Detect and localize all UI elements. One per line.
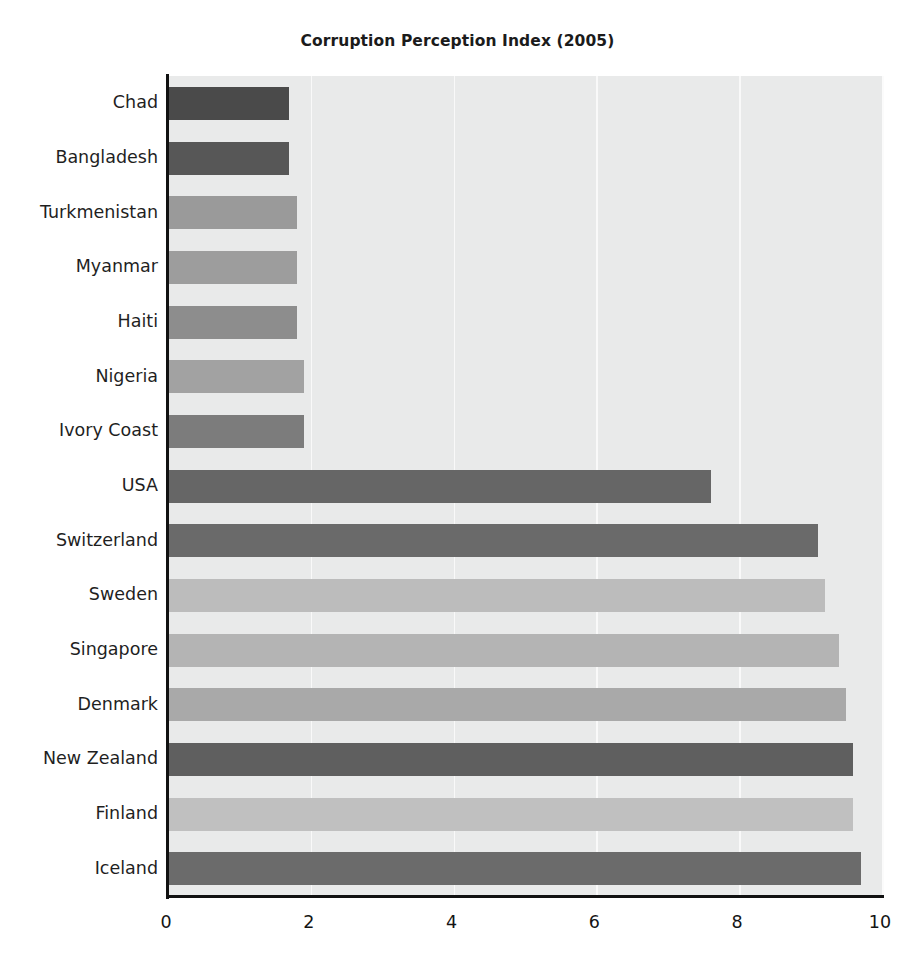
bar <box>168 251 297 284</box>
bar <box>168 415 304 448</box>
y-tick-label: Turkmenistan <box>0 202 158 222</box>
page-title: Corruption Perception Index (2005) <box>0 32 915 50</box>
bar <box>168 360 304 393</box>
y-tick-label: Nigeria <box>0 366 158 386</box>
bar <box>168 524 818 557</box>
bar <box>168 852 861 885</box>
chart-figure: Corruption Perception Index (2005) ChadB… <box>0 0 915 979</box>
y-tick-label: Singapore <box>0 639 158 659</box>
bar <box>168 798 853 831</box>
y-tick-label: New Zealand <box>0 748 158 768</box>
bar <box>168 634 839 667</box>
y-tick-label: Finland <box>0 803 158 823</box>
x-tick-label: 2 <box>279 912 339 932</box>
y-tick-label: USA <box>0 475 158 495</box>
bar <box>168 579 825 612</box>
x-axis-line <box>166 895 884 898</box>
x-tick-label: 6 <box>564 912 624 932</box>
x-tick-label: 0 <box>136 912 196 932</box>
y-axis-line <box>166 74 169 899</box>
bar <box>168 142 289 175</box>
y-tick-label: Myanmar <box>0 256 158 276</box>
y-tick-label: Sweden <box>0 584 158 604</box>
y-tick-label: Ivory Coast <box>0 420 158 440</box>
y-tick-label: Switzerland <box>0 530 158 550</box>
gridline-10 <box>882 76 884 897</box>
y-tick-label: Bangladesh <box>0 147 158 167</box>
bar <box>168 743 853 776</box>
bar <box>168 196 297 229</box>
y-tick-label: Chad <box>0 92 158 112</box>
bar <box>168 306 297 339</box>
x-tick-label: 8 <box>707 912 767 932</box>
x-tick-label: 4 <box>422 912 482 932</box>
bar <box>168 470 711 503</box>
x-tick-label: 10 <box>850 912 910 932</box>
y-tick-label: Iceland <box>0 858 158 878</box>
y-tick-label: Denmark <box>0 694 158 714</box>
bar <box>168 688 846 721</box>
bar <box>168 87 289 120</box>
y-tick-label: Haiti <box>0 311 158 331</box>
